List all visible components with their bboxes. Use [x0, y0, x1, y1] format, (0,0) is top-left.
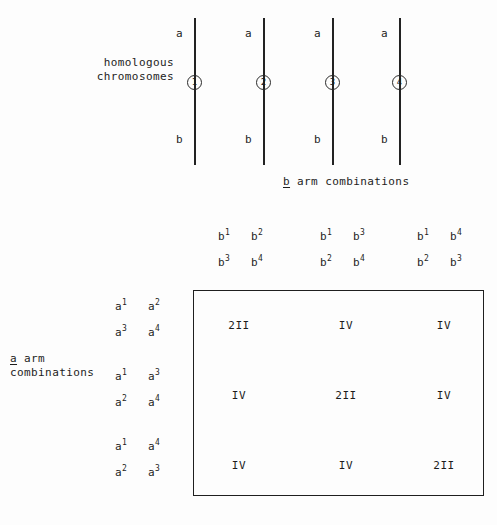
allele-superscript: 2	[327, 254, 332, 263]
allele-superscript: 2	[258, 228, 263, 237]
allele-base: b	[251, 230, 258, 243]
b-column-header-3-bottom-right: b3	[450, 256, 462, 269]
chromosome-2-line	[263, 18, 265, 165]
allele-superscript: 4	[360, 254, 365, 263]
allele-superscript: 3	[360, 228, 365, 237]
a-row-header-3-top-right: a4	[148, 440, 160, 453]
a-row-header-1-bottom-left: a3	[115, 326, 127, 339]
chromosome-3-line	[332, 18, 334, 165]
matrix-cell-r3c1: IV	[232, 459, 246, 472]
allele-base: b	[218, 256, 225, 269]
matrix-cell-r2c3: IV	[437, 389, 451, 402]
allele-superscript: 2	[155, 298, 160, 307]
allele-superscript: 3	[122, 324, 127, 333]
allele-superscript: 1	[122, 438, 127, 447]
chromosome-1-a-arm-label: a	[176, 27, 183, 40]
b-column-header-1-bottom-right: b4	[251, 256, 263, 269]
homologous-chromosomes-line2: chromosomes	[97, 70, 174, 83]
matrix-cell-r2c1: IV	[232, 389, 246, 402]
b-column-header-1: b1 b2 b3 b4	[218, 230, 260, 282]
b-column-header-3-top-left: b1	[417, 230, 429, 243]
b-column-header-2-bottom-right: b4	[353, 256, 365, 269]
allele-superscript: 1	[424, 228, 429, 237]
matrix-cell-r3c3: 2II	[433, 459, 455, 472]
allele-superscript: 2	[424, 254, 429, 263]
a-row-header-2-bottom-left: a2	[115, 396, 127, 409]
a-row-header-1-bottom-right: a4	[148, 326, 160, 339]
a-row-header-2-bottom-row: a2 a4	[115, 396, 157, 422]
matrix-cell-r1c3: IV	[437, 319, 451, 332]
b-column-header-1-bottom-row: b3 b4	[218, 256, 260, 282]
a-row-header-1-top-right: a2	[148, 300, 160, 313]
a-row-header-2-bottom-right: a4	[148, 396, 160, 409]
allele-base: b	[450, 230, 457, 243]
allele-base: a	[148, 300, 155, 313]
combination-matrix: 2II IV IV IV 2II IV IV IV 2II	[193, 290, 484, 496]
chromosome-4-a-arm-label: a	[381, 27, 388, 40]
chromosome-4-line	[399, 18, 401, 165]
allele-base: a	[115, 440, 122, 453]
chromosome-2: a 2 b	[244, 18, 284, 168]
matrix-cell-r2c2: 2II	[335, 389, 357, 402]
b-column-header-1-top-row: b1 b2	[218, 230, 260, 256]
chromosome-3-a-arm-label: a	[314, 27, 321, 40]
allele-base: a	[148, 326, 155, 339]
b-column-header-1-bottom-left: b3	[218, 256, 230, 269]
allele-base: b	[353, 256, 360, 269]
a-row-header-3-top-left: a1	[115, 440, 127, 453]
allele-base: b	[450, 256, 457, 269]
b-arm-combinations-label: b arm combinations	[283, 175, 409, 188]
allele-superscript: 2	[122, 394, 127, 403]
b-column-header-3-top-row: b1 b4	[417, 230, 459, 256]
chromosome-3-centromere-number: 3	[325, 75, 340, 90]
matrix-cell-r1c2: IV	[339, 319, 353, 332]
b-column-header-3-top-right: b4	[450, 230, 462, 243]
chromosome-2-a-arm-label: a	[245, 27, 252, 40]
chromosome-4-centromere-number: 4	[392, 75, 407, 90]
allele-superscript: 4	[457, 228, 462, 237]
allele-base: b	[417, 256, 424, 269]
chromosome-4: a 4 b	[380, 18, 420, 168]
allele-base: a	[148, 440, 155, 453]
a-row-header-3-bottom-row: a2 a3	[115, 466, 157, 492]
allele-superscript: 3	[225, 254, 230, 263]
allele-superscript: 4	[155, 438, 160, 447]
allele-base: a	[148, 396, 155, 409]
allele-superscript: 1	[122, 368, 127, 377]
allele-base: a	[148, 466, 155, 479]
b-column-header-2-top-left: b1	[320, 230, 332, 243]
a-arm-underlined-letter: a	[10, 352, 17, 365]
b-column-header-2-bottom-left: b2	[320, 256, 332, 269]
b-column-header-3-bottom-left: b2	[417, 256, 429, 269]
a-row-header-1: a1 a2 a3 a4	[115, 300, 157, 352]
a-row-header-2-top-left: a1	[115, 370, 127, 383]
allele-superscript: 4	[155, 324, 160, 333]
allele-base: a	[115, 396, 122, 409]
allele-base: a	[148, 370, 155, 383]
b-column-header-3-bottom-row: b2 b3	[417, 256, 459, 282]
allele-superscript: 3	[457, 254, 462, 263]
a-row-header-3-bottom-left: a2	[115, 466, 127, 479]
b-column-header-3: b1 b4 b2 b3	[417, 230, 459, 282]
allele-superscript: 3	[155, 368, 160, 377]
allele-superscript: 2	[122, 464, 127, 473]
chromosome-1-centromere-number: 1	[187, 75, 202, 90]
allele-base: a	[115, 466, 122, 479]
homologous-chromosomes-line1: homologous	[104, 56, 174, 69]
chromosome-3-b-arm-label: b	[314, 133, 321, 146]
allele-superscript: 4	[258, 254, 263, 263]
allele-base: b	[320, 230, 327, 243]
chromosome-2-centromere-number: 2	[256, 75, 271, 90]
chromosome-1-line	[194, 18, 196, 165]
allele-base: b	[353, 230, 360, 243]
b-arm-underlined-letter: b	[283, 175, 290, 188]
allele-base: a	[115, 300, 122, 313]
chromosome-1-b-arm-label: b	[176, 133, 183, 146]
b-column-header-2-top-right: b3	[353, 230, 365, 243]
allele-superscript: 1	[225, 228, 230, 237]
a-row-header-2-top-row: a1 a3	[115, 370, 157, 396]
chromosome-4-b-arm-label: b	[381, 133, 388, 146]
a-row-header-2: a1 a3 a2 a4	[115, 370, 157, 422]
homologous-chromosomes-label: homologouschromosomes	[48, 56, 174, 84]
allele-base: a	[115, 370, 122, 383]
